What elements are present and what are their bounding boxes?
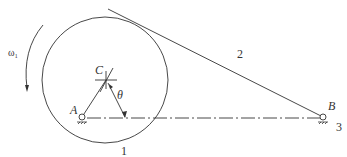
- link-AC: [82, 80, 106, 117]
- link-2: [108, 9, 323, 117]
- omega-label: ω₁: [8, 48, 18, 58]
- omega-arrow: [26, 25, 43, 88]
- pivot-B: [320, 114, 326, 120]
- point-B-label: B: [328, 100, 335, 112]
- diagram-graphics: [0, 0, 347, 157]
- point-C-label: C: [95, 64, 103, 76]
- link-1-label: 1: [121, 145, 127, 157]
- pivot-A: [79, 114, 85, 120]
- point-A-label: A: [70, 104, 77, 116]
- theta-label: θ: [117, 89, 123, 101]
- link-3-label: 3: [336, 121, 342, 133]
- link-2-label: 2: [237, 48, 243, 60]
- mechanism-diagram: ω₁ C θ A B 1 2 3: [0, 0, 347, 157]
